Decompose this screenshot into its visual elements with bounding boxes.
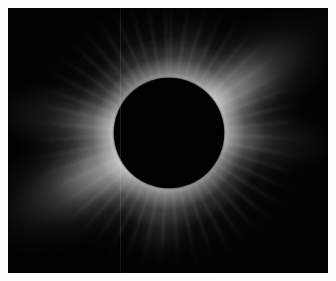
eclipse-photograph [0,0,336,281]
caption-area [8,264,328,273]
photo-plate [8,8,328,273]
moon-disk [114,78,224,188]
